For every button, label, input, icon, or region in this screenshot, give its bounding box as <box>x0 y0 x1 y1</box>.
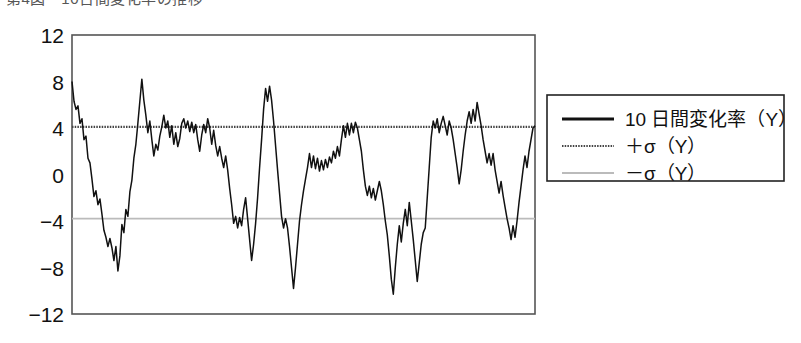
y-axis-tick-4: 4 <box>52 117 64 140</box>
y-axis-tick-neg4: −4 <box>40 210 64 233</box>
chart-figure: 第4図 10日間変化率の推移 12840−4−8−12 10 日間変化率（Y）＋… <box>0 0 801 343</box>
legend-label-1: ＋σ（Y） <box>625 136 706 157</box>
legend-label-0: 10 日間変化率（Y） <box>625 109 797 130</box>
y-axis-tick-neg12: −12 <box>28 303 64 326</box>
data-series-lines <box>72 79 535 294</box>
data-series-line <box>72 79 535 294</box>
plot-area-frame <box>72 35 535 314</box>
figure-caption-clipped: 第4図 10日間変化率の推移 <box>6 0 203 8</box>
y-axis-tick-0: 0 <box>52 164 64 187</box>
line-chart: 12840−4−8−12 10 日間変化率（Y）＋σ（Y）－σ（Y） <box>0 0 801 343</box>
legend-label-2: －σ（Y） <box>625 163 706 184</box>
sigma-reference-lines <box>72 127 535 219</box>
chart-legend: 10 日間変化率（Y）＋σ（Y）－σ（Y） <box>547 95 797 184</box>
y-axis-tick-neg8: −8 <box>40 257 64 280</box>
y-axis-tick-labels: 12840−4−8−12 <box>28 24 64 326</box>
y-axis-tick-8: 8 <box>52 71 64 94</box>
y-axis-tick-12: 12 <box>41 24 64 47</box>
